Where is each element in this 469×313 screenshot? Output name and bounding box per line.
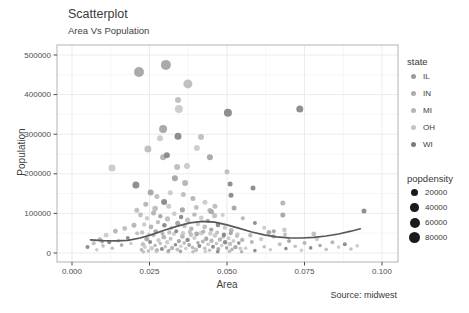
data-point: [311, 232, 316, 237]
data-point: [182, 241, 186, 245]
data-point: [293, 245, 297, 249]
y-tick-label: 200000: [24, 169, 51, 178]
y-tick-label: 100000: [24, 209, 51, 218]
y-tick-label: 500000: [24, 51, 51, 60]
data-point: [303, 241, 307, 245]
legend-state-item-OH: OH: [407, 119, 469, 136]
data-point: [248, 233, 252, 237]
legend-popdensity-title: popdensity: [407, 173, 469, 185]
data-point: [191, 246, 195, 250]
chart-subtitle: Area Vs Population: [68, 25, 149, 36]
data-point: [149, 225, 154, 230]
data-point: [109, 164, 116, 171]
data-point: [104, 233, 109, 238]
data-point: [181, 231, 185, 235]
data-point: [282, 228, 287, 233]
data-point: [309, 246, 313, 250]
chart-caption: Source: midwest: [330, 290, 397, 300]
data-point: [148, 189, 154, 195]
data-point: [174, 164, 180, 170]
x-tick-label: 0.000: [62, 267, 83, 276]
state-key-dot: [411, 91, 416, 96]
y-tick-label: 300000: [24, 130, 51, 139]
data-point: [228, 182, 233, 187]
y-axis-title: Population: [16, 128, 27, 175]
x-tick-label: 0.025: [139, 267, 160, 276]
data-point: [192, 212, 196, 216]
data-point: [194, 205, 199, 210]
legend-size-item-40000: 40000: [407, 200, 469, 215]
y-tick-label: 400000: [24, 90, 51, 99]
data-point: [168, 190, 173, 195]
legend-state-item-WI: WI: [407, 136, 469, 153]
data-point: [175, 105, 183, 113]
data-point: [165, 216, 170, 221]
data-point: [134, 208, 139, 213]
data-point: [223, 240, 227, 244]
data-point: [135, 231, 139, 235]
data-point: [201, 230, 205, 234]
data-point: [203, 200, 208, 205]
data-point: [164, 152, 170, 158]
data-point: [207, 208, 212, 213]
data-point: [259, 237, 263, 241]
data-point: [212, 213, 217, 218]
data-point: [183, 79, 192, 88]
data-point: [215, 230, 219, 234]
state-key-label: WI: [423, 140, 433, 149]
data-point: [212, 204, 217, 209]
state-key-dot: [411, 74, 416, 79]
size-key-dot: [410, 203, 419, 212]
data-point: [209, 239, 213, 243]
data-point: [170, 246, 174, 250]
data-point: [184, 163, 190, 169]
data-point: [187, 243, 191, 247]
data-point: [179, 245, 183, 249]
data-point: [167, 230, 171, 234]
x-tick-label: 0.100: [372, 267, 393, 276]
data-point: [349, 247, 353, 251]
data-point: [284, 247, 288, 251]
data-point: [218, 237, 222, 241]
data-point: [250, 240, 254, 244]
data-point: [92, 241, 96, 245]
data-point: [244, 246, 248, 250]
legend-state-item-MI: MI: [407, 102, 469, 119]
size-key-dot: [409, 232, 421, 244]
data-point: [182, 180, 188, 186]
data-point: [233, 245, 237, 249]
data-point: [241, 216, 245, 220]
data-point: [237, 241, 241, 245]
data-point: [153, 244, 157, 248]
data-point: [172, 175, 178, 181]
state-key-dot: [411, 142, 416, 147]
data-point: [164, 245, 168, 249]
data-point: [232, 239, 236, 243]
data-point: [207, 154, 213, 160]
data-point: [174, 243, 178, 247]
legend-size-item-80000: 80000: [407, 230, 469, 245]
data-point: [324, 248, 328, 252]
data-point: [166, 250, 170, 254]
data-point: [204, 250, 208, 254]
data-point: [122, 226, 127, 231]
data-point: [175, 133, 182, 140]
data-point: [134, 67, 144, 77]
legend-popdensity-items: 20000400006000080000: [407, 185, 469, 245]
data-point: [155, 250, 159, 254]
size-key-label: 60000: [425, 218, 447, 227]
data-point: [203, 246, 207, 250]
data-point: [224, 109, 232, 117]
state-key-dot: [411, 125, 416, 130]
data-point: [184, 247, 188, 251]
data-point: [208, 248, 212, 252]
data-point: [142, 222, 146, 226]
legend-size-item-20000: 20000: [407, 185, 469, 200]
data-point: [253, 249, 257, 253]
data-point: [185, 238, 189, 242]
data-point: [235, 232, 239, 236]
data-point: [287, 239, 291, 243]
data-point: [300, 248, 304, 252]
data-point: [157, 135, 163, 141]
state-key-label: IL: [423, 72, 430, 81]
